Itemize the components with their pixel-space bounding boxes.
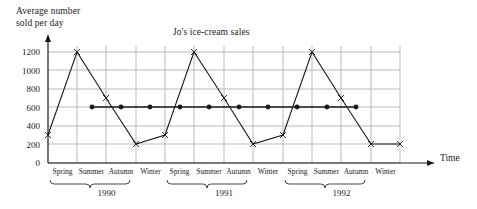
season-label-autumn-1990: Autumn xyxy=(106,167,136,176)
year-braces xyxy=(50,180,365,188)
gridlines-vertical xyxy=(77,46,400,163)
season-label-winter-1991: Winter xyxy=(253,167,283,176)
year-label-1990: 1990 xyxy=(48,188,165,198)
year-label-1992: 1992 xyxy=(283,188,400,198)
season-label-autumn-1991: Autumn xyxy=(224,167,253,176)
year-label-1991: 1991 xyxy=(165,188,283,198)
season-label-spring-1990: Spring xyxy=(48,167,77,176)
plot-area xyxy=(0,0,477,209)
season-label-winter-1992: Winter xyxy=(371,167,400,176)
season-label-spring-1991: Spring xyxy=(165,167,194,176)
season-label-summer-1992: Summer xyxy=(312,167,341,176)
season-label-summer-1990: Summer xyxy=(77,167,106,176)
season-label-summer-1991: Summer xyxy=(194,167,224,176)
chart-figure: Average number sold per day Jo's ice-cre… xyxy=(0,0,477,209)
season-label-autumn-1992: Autumn xyxy=(341,167,371,176)
season-label-winter-1990: Winter xyxy=(136,167,165,176)
axis-lines xyxy=(45,34,434,166)
season-label-spring-1992: Spring xyxy=(283,167,312,176)
